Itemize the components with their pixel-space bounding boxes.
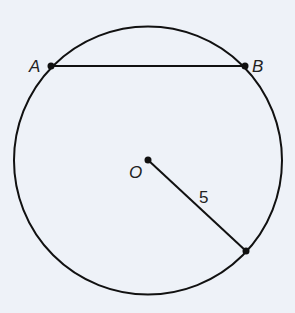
point-a [48, 63, 55, 70]
point-o [145, 157, 152, 164]
label-b: B [252, 57, 263, 76]
radius-label: 5 [199, 188, 208, 207]
circle-diagram: A B O 5 [0, 0, 295, 313]
radius-segment [148, 160, 246, 251]
point-on-circle [243, 248, 250, 255]
point-b [242, 63, 249, 70]
label-o: O [129, 163, 142, 182]
label-a: A [28, 57, 40, 76]
